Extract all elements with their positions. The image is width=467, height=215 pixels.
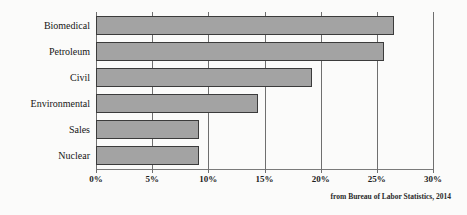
gridline-30pct	[433, 12, 434, 169]
bar-row	[96, 146, 433, 165]
bar-sales	[96, 120, 199, 139]
x-tick-label-6: 30%	[413, 174, 453, 184]
x-tick-label-5: 25%	[357, 174, 397, 184]
bar-nuclear	[96, 146, 199, 165]
category-label-biomedical: Biomedical	[44, 16, 90, 35]
x-tick-label-3: 15%	[245, 174, 285, 184]
x-tick-mark-1	[152, 169, 153, 173]
bar-civil	[96, 68, 312, 87]
category-axis-labels: BiomedicalPetroleumCivilEnvironmentalSal…	[0, 12, 90, 169]
x-tick-label-1: 5%	[132, 174, 172, 184]
category-label-sales: Sales	[69, 120, 90, 139]
category-label-environmental: Environmental	[31, 94, 90, 113]
bar-environmental	[96, 94, 258, 113]
x-tick-mark-0	[96, 169, 97, 173]
x-tick-mark-5	[377, 169, 378, 173]
bar-row	[96, 120, 433, 139]
bar-row	[96, 42, 433, 61]
source-caption: from Bureau of Labor Statistics, 2014	[0, 192, 451, 201]
x-tick-mark-3	[265, 169, 266, 173]
category-label-petroleum: Petroleum	[49, 42, 90, 61]
x-tick-mark-6	[433, 169, 434, 173]
bar-row	[96, 16, 433, 35]
x-tick-label-2: 10%	[188, 174, 228, 184]
plot-area	[96, 12, 433, 169]
category-label-civil: Civil	[70, 68, 90, 87]
bar-row	[96, 94, 433, 113]
x-tick-label-0: 0%	[76, 174, 116, 184]
x-tick-mark-4	[321, 169, 322, 173]
bar-row	[96, 68, 433, 87]
bar-biomedical	[96, 16, 394, 35]
x-tick-label-4: 20%	[301, 174, 341, 184]
bar-petroleum	[96, 42, 384, 61]
category-label-nuclear: Nuclear	[58, 146, 90, 165]
x-tick-mark-2	[208, 169, 209, 173]
bar-chart-figure: BiomedicalPetroleumCivilEnvironmentalSal…	[0, 0, 467, 215]
